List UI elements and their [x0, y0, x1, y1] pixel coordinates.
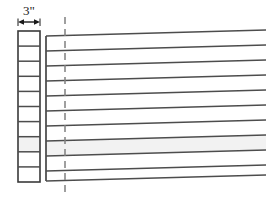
scale-cell-shaded: [18, 137, 40, 152]
technical-diagram: 3": [0, 0, 276, 203]
diagram-canvas: 3": [0, 0, 276, 203]
dimension-label-3-inch: 3": [23, 3, 35, 18]
